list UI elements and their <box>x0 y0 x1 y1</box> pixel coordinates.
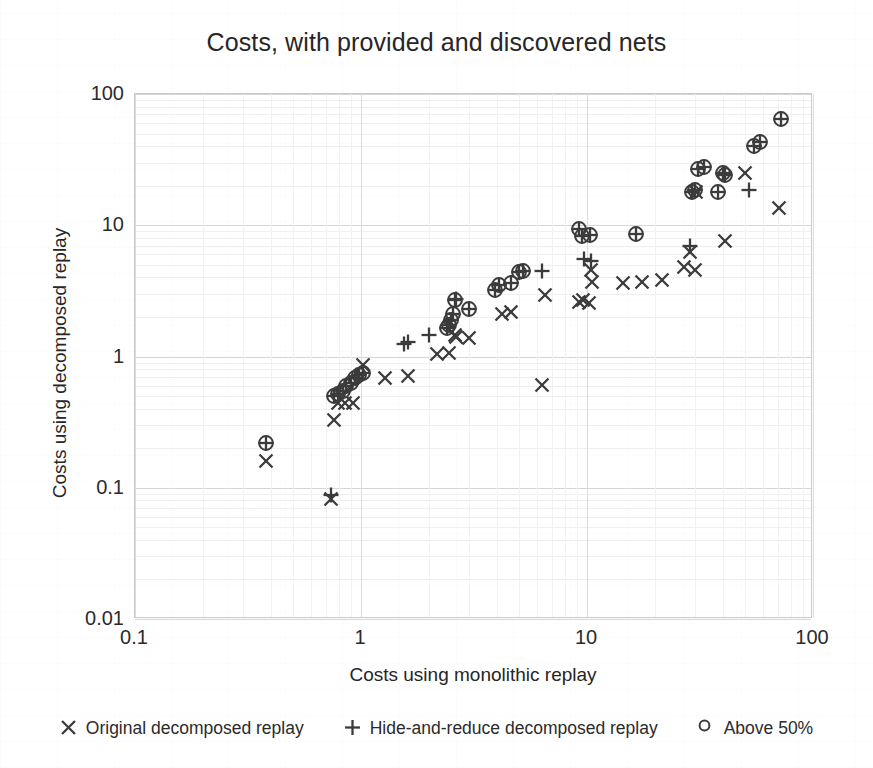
x-gridline-minor <box>565 94 566 617</box>
y-gridline-minor <box>135 508 811 509</box>
y-gridline-minor <box>135 500 811 501</box>
chart-title: Costs, with provided and discovered nets <box>0 28 873 57</box>
y-gridline-minor <box>135 396 811 397</box>
legend-label: Above 50% <box>724 718 814 739</box>
y-axis-label: Costs using decomposed replay <box>49 193 71 533</box>
x-gridline-major <box>135 94 136 617</box>
x-gridline-minor <box>577 94 578 617</box>
y-gridline-minor <box>135 238 811 239</box>
y-gridline-minor <box>135 409 811 410</box>
x-gridline-minor <box>655 94 656 617</box>
y-gridline-minor <box>135 494 811 495</box>
x-gridline-minor <box>552 94 553 617</box>
x-gridline-major <box>813 94 814 617</box>
y-tick-label: 10 <box>102 213 124 236</box>
y-gridline-minor <box>135 386 811 387</box>
y-gridline-minor <box>135 363 811 364</box>
plus-icon <box>344 719 364 739</box>
y-gridline-major <box>135 94 811 95</box>
y-axis-ticks: 0.010.1110100 <box>26 93 124 618</box>
y-gridline-minor <box>135 540 811 541</box>
y-gridline-minor <box>135 100 811 101</box>
scatter-chart: Costs, with provided and discovered nets… <box>0 0 873 768</box>
legend-item[interactable]: Above 50% <box>698 718 814 739</box>
y-gridline-major <box>135 225 811 226</box>
x-gridline-minor <box>469 94 470 617</box>
x-tick-label: 1 <box>354 626 365 649</box>
x-gridline-major <box>361 94 362 617</box>
x-gridline-minor <box>803 94 804 617</box>
y-gridline-minor <box>135 186 811 187</box>
x-gridline-minor <box>497 94 498 617</box>
x-gridline-minor <box>745 94 746 617</box>
x-gridline-minor <box>537 94 538 617</box>
x-gridline-minor <box>778 94 779 617</box>
y-gridline-minor <box>135 317 811 318</box>
y-gridline-minor <box>135 123 811 124</box>
y-tick-label: 0.1 <box>96 475 124 498</box>
x-tick-label: 100 <box>795 626 828 649</box>
x-gridline-minor <box>763 94 764 617</box>
x-gridline-minor <box>695 94 696 617</box>
y-gridline-minor <box>135 163 811 164</box>
y-gridline-minor <box>135 377 811 378</box>
plot-grid <box>135 94 811 617</box>
y-tick-label: 1 <box>113 344 124 367</box>
y-gridline-minor <box>135 448 811 449</box>
x-gridline-minor <box>326 94 327 617</box>
plot-area <box>134 93 812 618</box>
x-tick-label: 10 <box>575 626 597 649</box>
legend-item[interactable]: Hide-and-reduce decomposed replay <box>344 718 658 739</box>
cross-x-icon <box>60 719 80 739</box>
x-gridline-minor <box>723 94 724 617</box>
y-gridline-minor <box>135 107 811 108</box>
x-gridline-minor <box>429 94 430 617</box>
y-gridline-minor <box>135 246 811 247</box>
y-gridline-minor <box>135 114 811 115</box>
x-gridline-minor <box>271 94 272 617</box>
legend-label: Original decomposed replay <box>86 718 304 739</box>
y-gridline-minor <box>135 254 811 255</box>
x-axis-ticks: 0.1110100 <box>134 626 812 656</box>
y-gridline-minor <box>135 134 811 135</box>
legend-label: Hide-and-reduce decomposed replay <box>370 718 658 739</box>
circle-outline-icon <box>698 719 718 739</box>
y-gridline-minor <box>135 527 811 528</box>
y-gridline-minor <box>135 294 811 295</box>
x-gridline-minor <box>293 94 294 617</box>
y-gridline-minor <box>135 231 811 232</box>
y-tick-label: 100 <box>91 82 124 105</box>
x-gridline-minor <box>791 94 792 617</box>
y-gridline-minor <box>135 277 811 278</box>
x-axis-label: Costs using monolithic replay <box>134 664 812 686</box>
y-gridline-minor <box>135 579 811 580</box>
y-gridline-minor <box>135 265 811 266</box>
y-gridline-major <box>135 488 811 489</box>
x-gridline-major <box>587 94 588 617</box>
chart-legend: Original decomposed replayHide-and-reduc… <box>0 718 873 739</box>
y-gridline-minor <box>135 556 811 557</box>
x-gridline-minor <box>203 94 204 617</box>
y-gridline-minor <box>135 517 811 518</box>
y-gridline-major <box>135 357 811 358</box>
x-gridline-minor <box>311 94 312 617</box>
x-gridline-minor <box>519 94 520 617</box>
y-gridline-minor <box>135 425 811 426</box>
x-gridline-minor <box>243 94 244 617</box>
y-gridline-minor <box>135 369 811 370</box>
y-gridline-major <box>135 619 811 620</box>
x-gridline-minor <box>339 94 340 617</box>
legend-item[interactable]: Original decomposed replay <box>60 718 304 739</box>
x-gridline-minor <box>351 94 352 617</box>
y-gridline-minor <box>135 146 811 147</box>
y-tick-label: 0.01 <box>85 607 124 630</box>
x-tick-label: 0.1 <box>120 626 148 649</box>
